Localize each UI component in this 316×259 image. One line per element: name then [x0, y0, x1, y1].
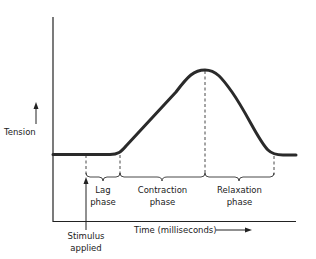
phase-label-contraction-line2: phase: [120, 197, 205, 207]
phase-label-contraction: Contraction phase: [120, 185, 205, 207]
twitch-diagram: [0, 0, 316, 259]
phase-label-lag-line1: Lag: [86, 185, 120, 195]
phase-label-lag: Lag phase: [86, 185, 120, 207]
phase-label-contraction-line1: Contraction: [120, 185, 205, 195]
x-axis-label: Time (milliseconds): [134, 225, 217, 235]
phase-label-relaxation-line2: phase: [205, 197, 274, 207]
time-arrow-icon: [216, 228, 252, 233]
stimulus-label-line2: applied: [56, 243, 116, 253]
stimulus-label-line1: Stimulus: [56, 231, 116, 241]
phase-label-lag-line2: phase: [86, 197, 120, 207]
phase-label-relaxation: Relaxation phase: [205, 185, 274, 207]
phase-label-relaxation-line1: Relaxation: [205, 185, 274, 195]
phase-braces: [86, 173, 274, 181]
stimulus-label: Stimulus applied: [56, 231, 116, 253]
tension-arrow-icon: [34, 102, 39, 124]
tension-curve: [53, 70, 296, 155]
y-axis-label: Tension: [4, 127, 36, 137]
